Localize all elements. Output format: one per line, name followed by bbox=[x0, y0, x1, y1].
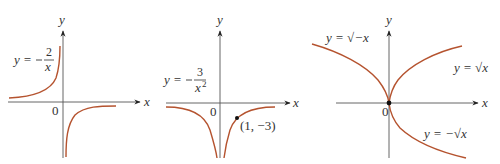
origin-label: 0 bbox=[52, 103, 59, 118]
svg-text:x: x bbox=[44, 59, 51, 74]
x-axis-label: x bbox=[143, 94, 150, 109]
point-label: (1, −3) bbox=[240, 118, 276, 133]
svg-text:2: 2 bbox=[202, 79, 207, 89]
svg-text:y =: y = bbox=[162, 72, 182, 87]
svg-text:2: 2 bbox=[46, 45, 52, 59]
equation-label: y = 3 x 2 bbox=[162, 65, 207, 95]
graph-1: x y 0 y = 2 x bbox=[8, 12, 150, 158]
label-sqrt-x: y = √x bbox=[452, 60, 488, 75]
graph-2: (1, −3) x y 0 y = 3 x 2 bbox=[162, 12, 299, 158]
svg-text:y =: y = bbox=[12, 52, 32, 67]
svg-text:x: x bbox=[194, 80, 201, 95]
x-axis-label: x bbox=[292, 95, 299, 110]
label-neg-sqrt-x: y = −√x bbox=[422, 126, 467, 141]
equation-label: y = 2 x bbox=[12, 45, 54, 74]
curve-neg-2-over-x-right bbox=[66, 106, 116, 157]
svg-text:3: 3 bbox=[197, 65, 203, 79]
graph-3: x y 0 y = √−x y = √x y = −√x bbox=[312, 12, 488, 158]
curve-sqrt-neg-x bbox=[312, 44, 389, 103]
label-sqrt-neg-x: y = √−x bbox=[324, 30, 369, 45]
origin-label: 0 bbox=[382, 104, 389, 119]
y-axis-label: y bbox=[57, 12, 65, 27]
y-axis-label: y bbox=[215, 12, 223, 27]
point-marker bbox=[235, 116, 239, 120]
origin-label: 0 bbox=[210, 104, 217, 119]
curve-sqrt-x bbox=[389, 46, 462, 103]
figure-canvas: x y 0 y = 2 x (1, −3) x y 0 y = 3 x 2 bbox=[0, 0, 500, 164]
x-axis-label: x bbox=[481, 95, 488, 110]
y-axis-label: y bbox=[384, 12, 392, 27]
